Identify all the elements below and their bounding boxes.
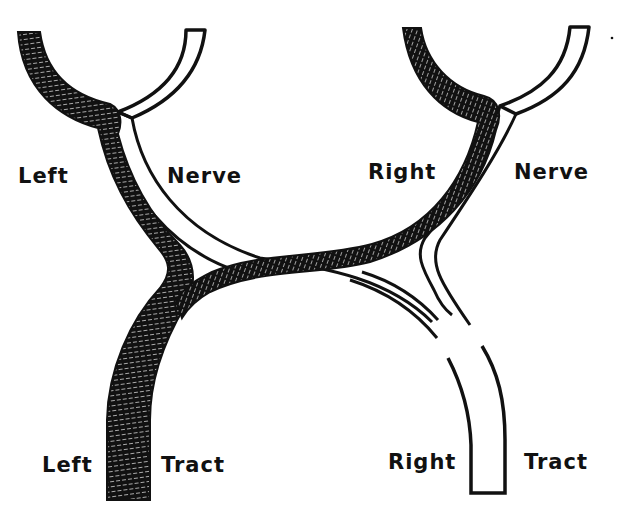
optic-chiasm-diagram: Left Nerve Right Nerve Left Tract Right … — [0, 0, 618, 517]
left-nerve-black-band — [18, 32, 193, 500]
label-right-nerve-nerve: Nerve — [514, 162, 589, 183]
chiasm-drawing — [0, 0, 618, 517]
left-nerve-white-arm — [118, 30, 205, 118]
label-left-tract-left: Left — [42, 455, 93, 476]
label-right-nerve-right: Right — [368, 162, 436, 183]
right-tract-white — [448, 346, 505, 493]
stray-dot — [611, 37, 614, 40]
label-left-nerve-nerve: Nerve — [167, 166, 242, 187]
label-left-nerve-left: Left — [18, 166, 69, 187]
label-left-tract-tract: Tract — [161, 455, 225, 476]
label-right-tract-right: Right — [388, 452, 456, 473]
label-right-tract-tract: Tract — [524, 452, 588, 473]
